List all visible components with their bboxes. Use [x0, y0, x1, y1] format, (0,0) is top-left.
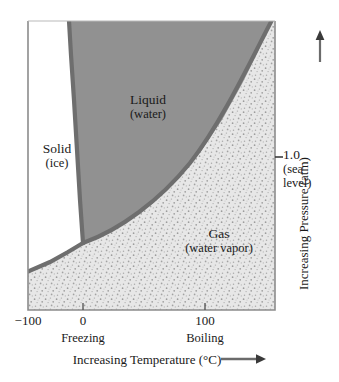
x-axis-title-text: Increasing Temperature (°C)	[73, 352, 221, 367]
region-label-solid-sub: (ice)	[26, 156, 88, 170]
region-label-gas-sub: (water vapor)	[160, 241, 278, 255]
region-label-gas: Gas (water vapor)	[160, 226, 278, 255]
region-label-liquid-sub: (water)	[100, 107, 196, 121]
region-label-liquid: Liquid (water)	[100, 92, 196, 121]
region-label-solid: Solid (ice)	[26, 141, 88, 170]
y-axis-title: Increasing Pressure (atm)	[296, 0, 314, 60]
x-annotation-freezing: Freezing	[43, 331, 123, 346]
region-label-gas-main: Gas	[160, 226, 278, 241]
x-axis-title: Increasing Temperature (°C)	[12, 352, 282, 368]
x-tick-label-100: 100	[175, 313, 235, 329]
x-tick-label-0: 0	[53, 313, 113, 329]
phase-diagram-figure: Solid (ice) Liquid (water) Gas (water va…	[0, 0, 339, 382]
y-axis-title-text: Increasing Pressure (atm)	[296, 60, 312, 290]
x-annotation-boiling: Boiling	[165, 331, 245, 346]
region-label-solid-main: Solid	[26, 141, 88, 156]
region-label-liquid-main: Liquid	[100, 92, 196, 107]
x-tick-label--100: −100	[0, 313, 58, 329]
y-axis-arrow	[316, 30, 325, 62]
